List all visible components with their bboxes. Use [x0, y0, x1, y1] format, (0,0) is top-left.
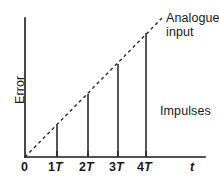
x-axis-label: t	[190, 160, 194, 174]
x-tick-label-0: 0	[21, 160, 28, 174]
x-tick-label-2t: 2T	[79, 160, 94, 174]
analogue-input-label: Analogue input	[166, 11, 219, 39]
analogue-input-label-line2: input	[166, 25, 219, 39]
analogue-input-label-line1: Analogue	[166, 11, 219, 25]
x-tick-label-1t: 1T	[48, 160, 63, 174]
error-impulse-diagram: Error t 0 1T 2T 3T 4T Analogue input Imp…	[0, 0, 219, 183]
impulses-label: Impulses	[160, 104, 211, 118]
analogue-input-ramp	[25, 18, 162, 157]
x-tick-label-3t: 3T	[109, 160, 124, 174]
x-tick-label-4t: 4T	[137, 160, 152, 174]
y-axis-label: Error	[13, 76, 27, 104]
